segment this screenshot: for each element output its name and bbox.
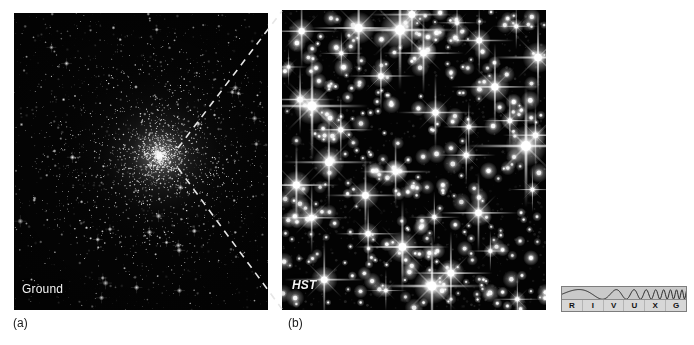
figure-caption-a: (a) bbox=[13, 316, 28, 330]
spectrum-band-letters: RIVUXG bbox=[562, 299, 686, 311]
spectrum-band-x-ray: X bbox=[645, 300, 666, 311]
spectrum-band-ultraviolet: U bbox=[624, 300, 645, 311]
rivuxg-spectrum-key: RIVUXG bbox=[561, 286, 687, 312]
image-panel-ground: Ground bbox=[14, 13, 268, 310]
spectrum-band-infrared: I bbox=[583, 300, 604, 311]
image-panel-hst: HST bbox=[282, 10, 546, 310]
spectrum-band-gamma-ray: G bbox=[666, 300, 686, 311]
figure-caption-b: (b) bbox=[288, 316, 303, 330]
ground-star-field-canvas bbox=[14, 13, 268, 310]
spectrum-band-visible: V bbox=[604, 300, 625, 311]
spectrum-band-radio: R bbox=[562, 300, 583, 311]
astronomy-figure: Ground (a) HST (b) RIVUXG bbox=[0, 0, 694, 345]
hst-star-field-canvas bbox=[282, 10, 546, 310]
